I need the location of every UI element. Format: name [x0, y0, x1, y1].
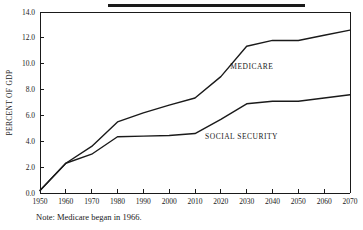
- series-line-medicare: [40, 30, 350, 190]
- x-tick-label: 1970: [84, 197, 99, 206]
- line-chart: 0.02.04.06.08.010.012.014.0 195019601970…: [0, 0, 363, 230]
- y-axis-title: PERCENT OF GDP: [5, 70, 14, 136]
- x-tick-label: 2070: [343, 197, 358, 206]
- series-label-medicare: MEDICARE: [230, 62, 273, 71]
- x-tick-label: 2030: [239, 197, 254, 206]
- x-tick-label: 2020: [213, 197, 228, 206]
- y-tick-label: 8.0: [26, 85, 36, 94]
- y-tick-label: 2.0: [26, 163, 36, 172]
- y-axis-tick-labels: 0.02.04.06.08.010.012.014.0: [22, 8, 35, 198]
- x-tick-label: 1960: [58, 197, 73, 206]
- series-line-social-security: [40, 95, 350, 191]
- y-tick-label: 10.0: [22, 59, 35, 68]
- x-tick-label: 2060: [317, 197, 332, 206]
- chart-note: Note: Medicare began in 1966.: [36, 212, 142, 222]
- series-label-social-security: SOCIAL SECURITY: [205, 132, 278, 141]
- x-tick-label: 1950: [33, 197, 48, 206]
- x-tick-label: 2040: [265, 197, 280, 206]
- series-lines: [40, 30, 350, 190]
- y-tick-label: 6.0: [26, 111, 36, 120]
- x-axis-tick-labels: 1950196019701980199020002010202020302040…: [33, 197, 358, 206]
- x-tick-label: 2050: [291, 197, 306, 206]
- y-tick-label: 4.0: [26, 137, 36, 146]
- y-tick-label: 12.0: [22, 33, 35, 42]
- chart-figure: 0.02.04.06.08.010.012.014.0 195019601970…: [0, 0, 363, 230]
- x-tick-label: 1980: [110, 197, 125, 206]
- x-tick-label: 2010: [188, 197, 203, 206]
- x-tick-label: 1990: [136, 197, 151, 206]
- x-tick-label: 2000: [162, 197, 177, 206]
- y-tick-label: 14.0: [22, 8, 35, 17]
